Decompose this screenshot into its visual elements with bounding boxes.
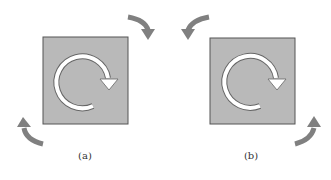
curved-arrow-up-icon (295, 116, 321, 144)
panel-b-label: (b) (231, 150, 271, 161)
panel-a (17, 17, 155, 144)
curved-arrow-down-icon (181, 17, 209, 40)
panel-b (181, 17, 321, 144)
diagram-canvas (0, 0, 331, 180)
curved-arrow-down-icon (128, 17, 155, 40)
panel-a-label: (a) (65, 150, 105, 161)
curved-arrow-up-icon (17, 117, 43, 144)
